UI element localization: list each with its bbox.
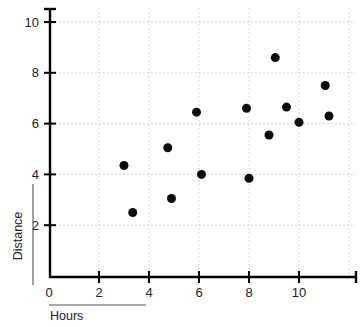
data-point (197, 170, 206, 179)
y-axis-title: Distance (11, 212, 25, 261)
x-tick-label: 2 (95, 285, 102, 300)
scatter-chart: 246810 0246810 Distance Hours (0, 0, 361, 327)
y-tick-label-group: 246810 (25, 15, 39, 233)
data-point (242, 104, 251, 113)
y-tick-label: 6 (32, 116, 39, 131)
y-axis-title-group: Distance (11, 184, 33, 285)
x-tick-label: 8 (245, 285, 252, 300)
data-point (271, 53, 280, 62)
data-point (282, 103, 291, 112)
y-tick-label: 10 (25, 15, 39, 30)
data-point (245, 174, 254, 183)
data-point (163, 143, 172, 152)
data-point (192, 108, 201, 117)
data-point-group (120, 53, 334, 217)
data-point (167, 194, 176, 203)
x-tick-label: 4 (145, 285, 152, 300)
x-tick-label: 10 (292, 285, 306, 300)
data-point (128, 208, 137, 217)
data-point (295, 118, 304, 127)
data-point (325, 111, 334, 120)
chart-canvas: 246810 0246810 Distance Hours (0, 0, 361, 327)
data-point (120, 161, 129, 170)
x-tick-label-group: 0246810 (45, 285, 306, 300)
data-point (265, 131, 274, 140)
x-axis-title-group: Hours (49, 305, 146, 323)
data-point (321, 81, 330, 90)
x-axis-title: Hours (50, 309, 83, 323)
axes-group (44, 8, 357, 283)
y-tick-label: 8 (32, 65, 39, 80)
x-tick-label: 6 (195, 285, 202, 300)
y-tick-label: 4 (32, 167, 39, 182)
x-tick-label: 0 (45, 285, 52, 300)
gridlines-group (51, 8, 356, 277)
